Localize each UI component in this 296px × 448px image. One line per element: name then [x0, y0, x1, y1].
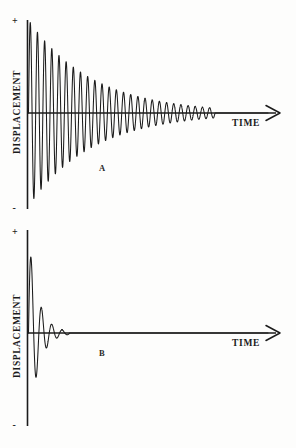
waveform-trace-a [29, 23, 269, 199]
panel-letter-a: A [99, 163, 105, 173]
negative-sign-a: - [13, 203, 16, 213]
panel-a-plot [0, 0, 296, 224]
panel-b-plot [0, 224, 296, 448]
positive-sign-b: + [12, 227, 18, 237]
x-axis-label-b: TIME [232, 338, 260, 348]
negative-sign-b: - [13, 420, 16, 430]
y-axis-label-b: DISPLACEMENT [12, 224, 22, 448]
panel-b: DISPLACEMENT TIME + - B [0, 224, 296, 448]
panel-letter-b: B [99, 348, 105, 358]
damped-oscillation-figure: DISPLACEMENT TIME + - A DISPLACEMENT TIM… [0, 0, 296, 448]
x-axis-label-a: TIME [232, 118, 260, 128]
waveform-trace-b [29, 257, 269, 377]
panel-a: DISPLACEMENT TIME + - A [0, 0, 296, 224]
y-axis-label-a: DISPLACEMENT [12, 0, 22, 224]
positive-sign-a: + [12, 16, 18, 26]
